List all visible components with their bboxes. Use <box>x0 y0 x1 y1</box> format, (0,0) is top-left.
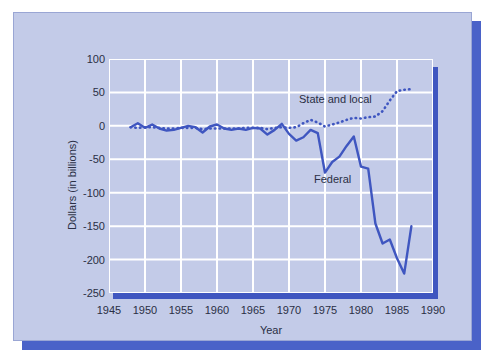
y-tick-label: -150 <box>61 221 105 232</box>
x-axis-title: Year <box>109 324 433 336</box>
y-tick-label: -100 <box>61 188 105 199</box>
x-tick-label: 1945 <box>89 304 129 316</box>
series-label-state-and-local: State and local <box>299 93 372 105</box>
x-tick-label: 1975 <box>305 304 345 316</box>
x-tick-label: 1980 <box>341 304 381 316</box>
x-tick-label: 1955 <box>161 304 201 316</box>
x-tick-label: 1990 <box>413 304 453 316</box>
x-tick-label: 1960 <box>197 304 237 316</box>
x-tick-label: 1985 <box>377 304 417 316</box>
y-tick-label: 0 <box>61 121 105 132</box>
x-tick-label: 1970 <box>269 304 309 316</box>
vertical-gridlines <box>109 59 433 293</box>
plot-svg <box>109 59 433 293</box>
y-tick-label: 50 <box>61 87 105 98</box>
chart-figure: Dollars (in billions) 100500-50-100-150-… <box>0 0 485 354</box>
x-tick-label: 1965 <box>233 304 273 316</box>
y-tick-label: -50 <box>61 154 105 165</box>
series-layer <box>131 89 412 274</box>
x-axis-tick-labels: 1945195019551960196519701975198019851990 <box>109 304 433 320</box>
series-label-federal: Federal <box>314 173 351 185</box>
y-axis-tick-labels: 100500-50-100-150-200-250 <box>55 59 105 293</box>
y-tick-label: -200 <box>61 255 105 266</box>
x-tick-label: 1950 <box>125 304 165 316</box>
plot-frame-shadow-bottom <box>113 293 438 299</box>
chart-card: Dollars (in billions) 100500-50-100-150-… <box>13 12 472 341</box>
horizontal-gridlines <box>109 59 433 293</box>
plot-area <box>109 59 433 293</box>
y-tick-label: 100 <box>61 54 105 65</box>
series-line-federal <box>131 123 412 273</box>
y-tick-label: -250 <box>61 288 105 299</box>
